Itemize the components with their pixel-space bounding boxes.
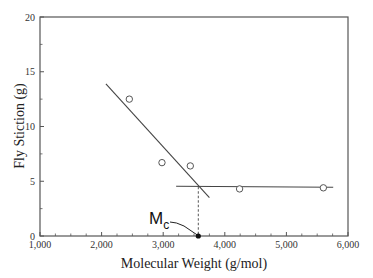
x-axis-title: Molecular Weight (g/mol)	[121, 256, 268, 272]
x-tick-label: 3,000	[152, 239, 175, 250]
data-point	[126, 96, 132, 102]
x-tick-label: 2,000	[90, 239, 113, 250]
data-point	[320, 185, 326, 191]
y-axis-title: Fly Stiction (g)	[12, 83, 28, 169]
x-tick-label: 6,000	[337, 239, 360, 250]
data-point	[236, 186, 242, 192]
chart: 1,0002,0003,0004,0005,0006,000 05101520 …	[0, 0, 373, 278]
x-tick-label: 4,000	[214, 239, 237, 250]
y-tick-label: 5	[30, 176, 35, 187]
y-tick-label: 15	[25, 66, 35, 77]
mc-point	[196, 233, 201, 238]
y-tick-label: 20	[25, 12, 35, 23]
x-tick-label: 5,000	[275, 239, 298, 250]
data-point	[159, 159, 165, 165]
y-tick-label: 0	[30, 231, 35, 242]
data-point	[187, 163, 193, 169]
